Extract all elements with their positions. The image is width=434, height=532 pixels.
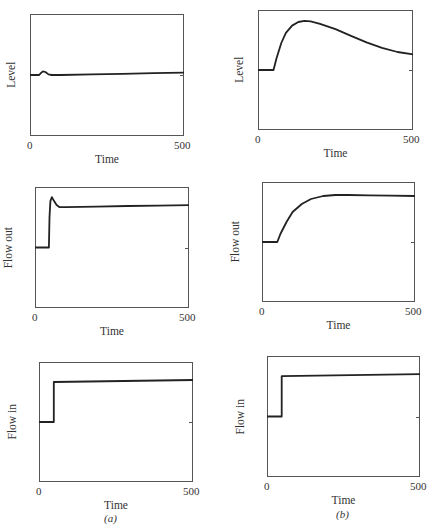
series-line xyxy=(0,0,434,532)
caption-b: (b) xyxy=(336,509,349,520)
caption-a: (a) xyxy=(104,513,117,524)
x-tick-label: 500 xyxy=(410,481,427,492)
x-axis-label: Time xyxy=(314,495,374,507)
y-axis-label: Flow in xyxy=(235,386,247,446)
right-axis-tick xyxy=(416,417,420,418)
x-tick-label: 0 xyxy=(264,481,270,492)
